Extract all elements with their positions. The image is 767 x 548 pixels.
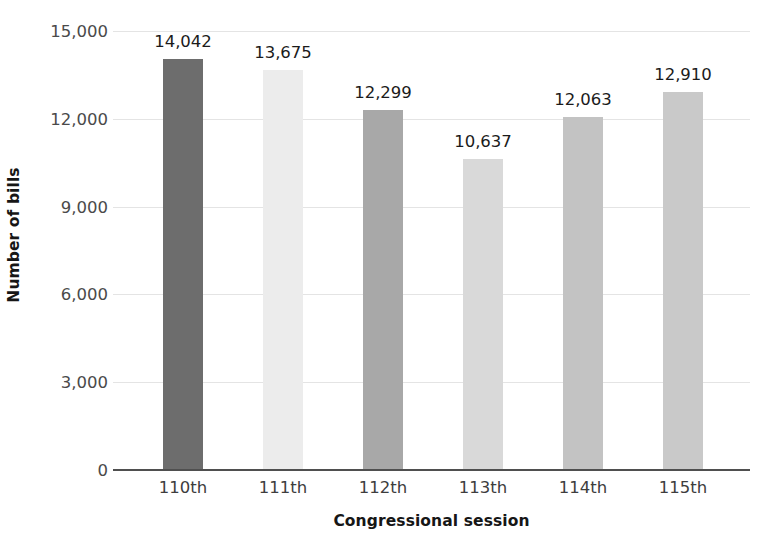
y-axis-tick-label: 0: [30, 461, 108, 480]
y-axis-tick-label: 6,000: [30, 285, 108, 304]
x-axis-title: Congressional session: [113, 512, 750, 530]
y-axis-title-label: Number of bills: [5, 167, 23, 302]
y-axis-title: Number of bills: [0, 0, 28, 470]
y-axis-tick-label: 15,000: [30, 22, 108, 41]
bar[interactable]: [363, 110, 403, 470]
bar[interactable]: [163, 59, 203, 470]
bar-chart: Number of bills 03,0006,0009,00012,00015…: [0, 0, 767, 548]
bar-value-label: 14,042: [154, 32, 212, 51]
x-axis-tick-label: 110th: [159, 478, 207, 497]
gridline: [113, 382, 750, 383]
bar-value-label: 10,637: [454, 132, 512, 151]
x-axis-tick-label: 114th: [559, 478, 607, 497]
gridline: [113, 294, 750, 295]
bar-value-label: 12,299: [354, 83, 412, 102]
bar[interactable]: [563, 117, 603, 470]
y-axis-tick-label: 3,000: [30, 373, 108, 392]
x-axis-tick-label: 115th: [659, 478, 707, 497]
y-axis-tick-label: 9,000: [30, 197, 108, 216]
plot-area: [113, 31, 750, 470]
x-axis-tick-label: 112th: [359, 478, 407, 497]
bar-value-label: 12,063: [554, 90, 612, 109]
bar[interactable]: [663, 92, 703, 470]
bar-value-label: 12,910: [654, 65, 712, 84]
y-axis-tick-label: 12,000: [30, 109, 108, 128]
x-axis-line: [113, 469, 750, 471]
y-axis-tick-labels: 03,0006,0009,00012,00015,000: [26, 0, 108, 548]
gridline: [113, 207, 750, 208]
bar[interactable]: [463, 159, 503, 470]
x-axis-tick-label: 113th: [459, 478, 507, 497]
x-axis-tick-label: 111th: [259, 478, 307, 497]
bar-value-label: 13,675: [254, 43, 312, 62]
bar[interactable]: [263, 70, 303, 470]
gridline: [113, 119, 750, 120]
